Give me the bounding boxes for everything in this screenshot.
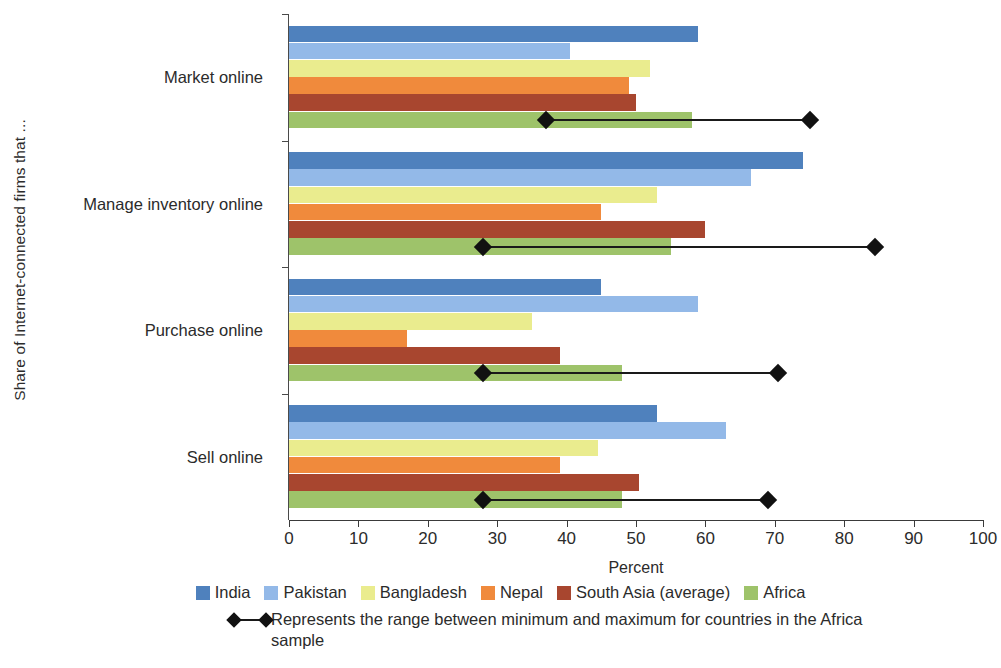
legend-range-note: Represents the range between minimum and… — [271, 609, 911, 651]
range-line — [483, 499, 768, 501]
range-marker-icon — [229, 610, 271, 630]
x-tick-label: 20 — [418, 529, 437, 549]
x-tick-label: 100 — [969, 529, 997, 549]
y-group-tick — [282, 394, 289, 395]
legend-label: Nepal — [500, 583, 543, 602]
category-label: Market online — [164, 68, 263, 87]
x-tick-label: 70 — [765, 529, 784, 549]
legend-swatch — [557, 586, 571, 600]
x-tick — [775, 520, 776, 527]
x-tick-label: 30 — [488, 529, 507, 549]
diamond-max-marker — [866, 238, 884, 256]
bar — [289, 94, 636, 111]
bar — [289, 296, 698, 313]
x-tick-label: 90 — [904, 529, 923, 549]
legend-swatch — [264, 586, 278, 600]
bar — [289, 221, 705, 238]
x-tick-label: 50 — [627, 529, 646, 549]
x-tick — [636, 520, 637, 527]
bar — [289, 313, 532, 330]
x-tick — [497, 520, 498, 527]
category-label: Purchase online — [145, 321, 263, 340]
legend-item[interactable]: South Asia (average) — [557, 583, 730, 602]
bar — [289, 474, 639, 491]
x-tick — [358, 520, 359, 527]
legend-label: South Asia (average) — [576, 583, 730, 602]
x-tick-label: 60 — [696, 529, 715, 549]
bar — [289, 169, 751, 186]
category-label: Sell online — [187, 447, 263, 466]
bar — [289, 77, 629, 94]
bar — [289, 330, 407, 347]
legend-swatch — [481, 586, 495, 600]
plot-area: 0102030405060708090100 Percent — [289, 14, 983, 520]
bar — [289, 457, 560, 474]
bar — [289, 440, 598, 457]
diamond-max-marker — [800, 111, 818, 129]
y-group-tick — [282, 267, 289, 268]
legend-range-row: Represents the range between minimum and… — [0, 609, 1001, 651]
diamond-max-marker — [769, 364, 787, 382]
legend-item[interactable]: Nepal — [481, 583, 543, 602]
bar — [289, 279, 601, 296]
x-tick-label: 40 — [557, 529, 576, 549]
diamond-min-icon — [226, 612, 242, 628]
y-group-tick — [282, 14, 289, 15]
legend-swatch — [361, 586, 375, 600]
bar — [289, 60, 650, 77]
bar — [289, 187, 657, 204]
x-tick — [983, 520, 984, 527]
x-tick — [844, 520, 845, 527]
bar — [289, 422, 726, 439]
x-tick — [428, 520, 429, 527]
bar — [289, 204, 601, 221]
range-line — [483, 372, 778, 374]
legend-swatch — [744, 586, 758, 600]
bar — [289, 347, 560, 364]
category-label: Manage inventory online — [83, 194, 263, 213]
legend-label: India — [215, 583, 251, 602]
legend-item[interactable]: India — [196, 583, 251, 602]
x-tick-label: 10 — [349, 529, 368, 549]
chart-figure: Share of Internet-connected firms that .… — [0, 0, 1001, 668]
legend-item[interactable]: Africa — [744, 583, 805, 602]
x-tick-label: 80 — [835, 529, 854, 549]
bar — [289, 26, 698, 43]
legend-label: Bangladesh — [380, 583, 467, 602]
legend-item[interactable]: Bangladesh — [361, 583, 467, 602]
diamond-max-marker — [759, 491, 777, 509]
bar — [289, 43, 570, 60]
y-group-tick — [282, 141, 289, 142]
x-axis-title: Percent — [289, 559, 983, 577]
range-line — [483, 246, 875, 248]
category-labels: Market onlineManage inventory onlinePurc… — [0, 14, 275, 520]
legend-label: Africa — [763, 583, 805, 602]
legend-series-row: IndiaPakistanBangladeshNepalSouth Asia (… — [0, 583, 1001, 602]
legend-item[interactable]: Pakistan — [264, 583, 346, 602]
x-tick — [567, 520, 568, 527]
x-tick — [289, 520, 290, 527]
legend-label: Pakistan — [283, 583, 346, 602]
x-tick-label: 0 — [284, 529, 293, 549]
legend: IndiaPakistanBangladeshNepalSouth Asia (… — [0, 583, 1001, 651]
bar — [289, 405, 657, 422]
bar — [289, 152, 803, 169]
x-tick — [914, 520, 915, 527]
x-tick — [705, 520, 706, 527]
legend-swatch — [196, 586, 210, 600]
range-line — [546, 119, 810, 121]
